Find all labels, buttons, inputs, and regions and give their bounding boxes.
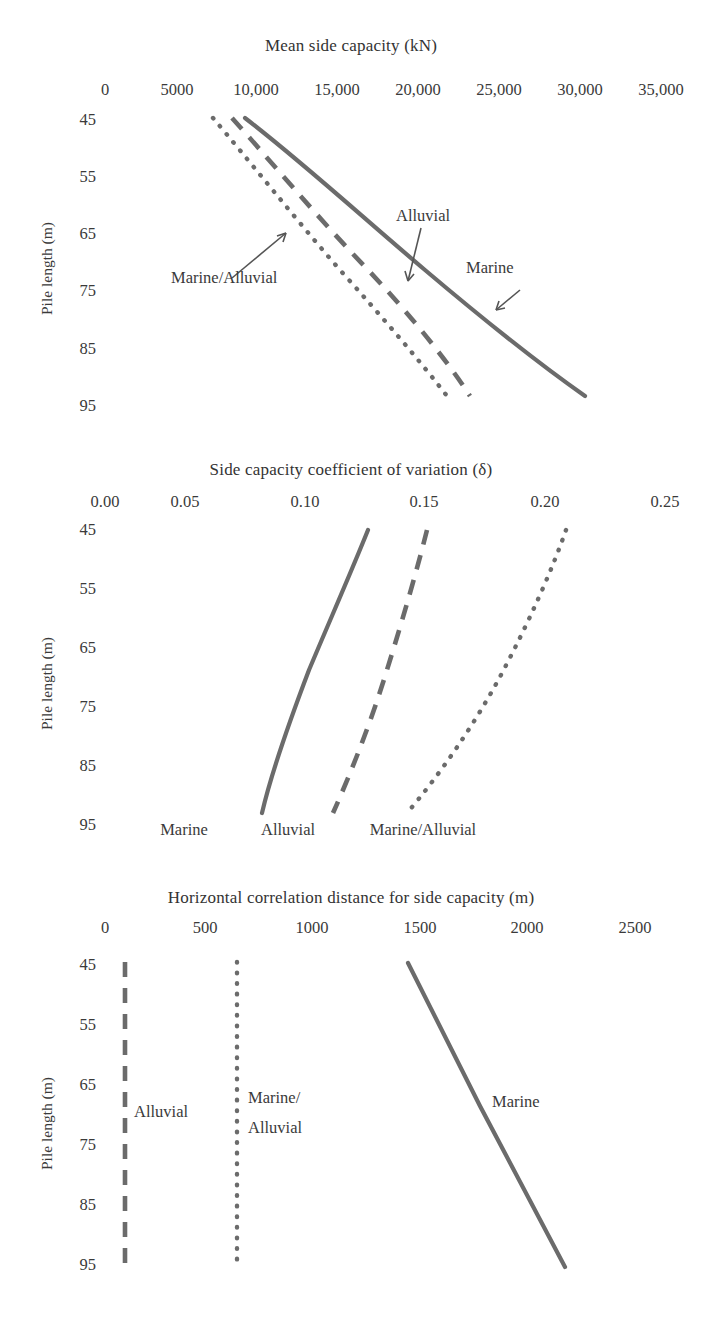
chart1-series-marine xyxy=(245,118,585,396)
chart2-series-marine-alluvial xyxy=(407,530,566,813)
chart1-annotation-alluvial: Alluvial xyxy=(396,206,450,226)
chart2-series-marine xyxy=(262,530,368,813)
chart3-annotation-marine-alluvial-line1: Marine/ xyxy=(248,1088,300,1108)
chart3-series-marine xyxy=(408,963,565,1267)
chart-mean-side-capacity: Mean side capacity (kN) 0 5000 10,000 15… xyxy=(0,0,702,430)
chart2-annotation-marine: Marine xyxy=(160,820,208,840)
chart2-plot-area xyxy=(0,430,702,860)
chart1-series-alluvial xyxy=(232,118,470,396)
chart1-plot-area xyxy=(0,0,702,430)
chart3-annotation-marine: Marine xyxy=(492,1092,540,1112)
chart1-annotation-marine: Marine xyxy=(466,258,514,278)
chart-side-capacity-cov: Side capacity coefficient of variation (… xyxy=(0,430,702,860)
chart-horizontal-correlation-distance: Horizontal correlation distance for side… xyxy=(0,860,702,1317)
chart3-annotation-marine-alluvial-line2: Alluvial xyxy=(248,1118,302,1138)
chart2-annotation-marine-alluvial: Marine/Alluvial xyxy=(370,820,476,840)
chart3-plot-area xyxy=(0,860,702,1317)
chart1-arrow-marine xyxy=(496,290,520,310)
chart3-annotation-alluvial: Alluvial xyxy=(134,1102,188,1122)
chart2-series-alluvial xyxy=(333,530,427,813)
chart1-annotation-marine-alluvial: Marine/Alluvial xyxy=(171,268,277,288)
chart2-annotation-alluvial: Alluvial xyxy=(261,820,315,840)
